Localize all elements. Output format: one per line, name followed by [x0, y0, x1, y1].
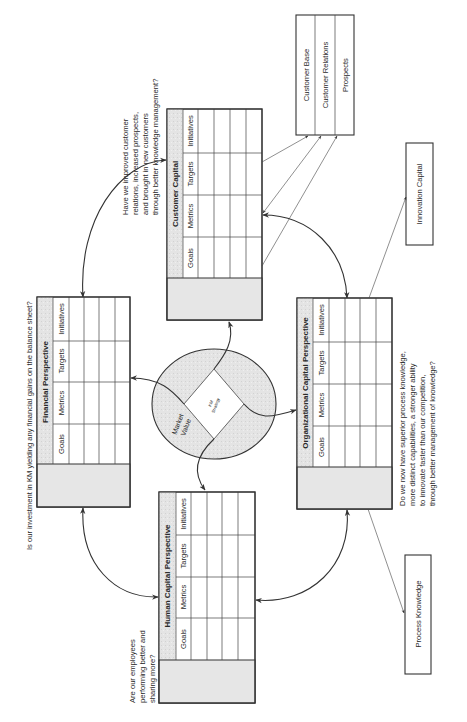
customer-components-box: Customer Base Customer Relations Prospec… [296, 15, 354, 135]
svg-text:Are our employees: Are our employees [128, 639, 137, 703]
prospects-label: Prospects [341, 58, 350, 92]
financial-perspective-title: Financial Perspective [41, 341, 50, 423]
process-knowledge-box: Process Knowledge [405, 555, 431, 674]
svg-text:through better management of k: through better management of knowledge? [428, 361, 437, 506]
customer-base-label: Customer Base [302, 49, 311, 101]
svg-text:performing better and: performing better and [138, 630, 147, 703]
svg-text:more distinct capabilities, a: more distinct capabilities, a stronger a… [408, 363, 417, 506]
organizational-question: Do we now have superior process knowledg… [398, 351, 437, 506]
svg-text:Targets: Targets [57, 348, 66, 373]
human-capital-title: Human Capital Perspective [163, 524, 172, 628]
customer-capital-title: Customer Capital [171, 161, 180, 227]
human-question: Are our employees performing better and … [128, 630, 157, 703]
arrow-to-customer-relations [263, 136, 321, 213]
col-goals: Goals [186, 248, 195, 268]
svg-text:Goals: Goals [57, 434, 66, 454]
customer-capital-box: Customer Capital Goals Metrics Targets I… [167, 109, 262, 320]
svg-text:Initiatives: Initiatives [57, 303, 66, 335]
process-knowledge-label: Process Knowledge [414, 580, 423, 647]
arrow-to-process-knowledge [368, 509, 404, 613]
svg-text:Goals: Goals [317, 437, 326, 457]
human-capital-box: Human Capital Perspective Goals Metrics … [159, 492, 255, 703]
financial-perspective-box: Financial Perspective Goals Metrics Targ… [37, 297, 130, 507]
market-value-circle: Market Value KM Strategy [131, 322, 296, 490]
svg-text:Metrics: Metrics [317, 393, 326, 418]
arrow-to-customer-base [262, 136, 308, 162]
organizational-capital-title: Organizational Capital Perspective [301, 317, 310, 449]
arrow-organizational-human [256, 510, 347, 600]
svg-text:Have we improved customer: Have we improved customer [121, 118, 130, 215]
col-metrics: Metrics [186, 204, 195, 229]
svg-text:through better knowledge manag: through better knowledge management? [151, 79, 160, 215]
innovation-capital-box: Innovation Capital [406, 143, 433, 245]
svg-text:Metrics: Metrics [57, 391, 66, 416]
svg-text:Initiatives: Initiatives [317, 304, 326, 336]
arrow-financial-human [83, 508, 158, 597]
financial-question: Is our investment in KM yielding any fin… [25, 301, 34, 550]
svg-text:Do we now have superior proces: Do we now have superior process knowledg… [398, 351, 407, 506]
arrow-customer-organizational [263, 215, 347, 298]
customer-question: Have we improved customer relations, inc… [121, 79, 160, 215]
svg-text:Goals: Goals [179, 629, 188, 649]
svg-text:relations, increased prospects: relations, increased prospects, [131, 112, 140, 215]
arrow-to-innovation-capital [369, 197, 406, 298]
svg-text:Targets: Targets [179, 543, 188, 568]
svg-text:Initiatives: Initiatives [179, 498, 188, 530]
innovation-capital-label: Innovation Capital [415, 163, 424, 224]
col-initiatives: Initiatives [186, 115, 195, 147]
customer-relations-label: Customer Relations [321, 41, 330, 108]
col-targets: Targets [186, 161, 195, 186]
km-balanced-scorecard-diagram: Market Value KM Strategy Customer Capita… [0, 0, 467, 722]
svg-text:Metrics: Metrics [179, 585, 188, 610]
svg-text:and brought in new customers: and brought in new customers [141, 113, 150, 215]
svg-text:sharing more?: sharing more? [148, 654, 157, 703]
organizational-capital-box: Organizational Capital Perspective Goals… [297, 298, 392, 509]
svg-text:to innovate faster than our co: to innovate faster than our competition, [418, 375, 427, 506]
svg-text:Targets: Targets [317, 350, 326, 375]
